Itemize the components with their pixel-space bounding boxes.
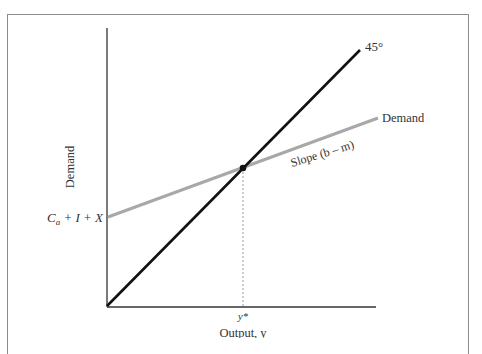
x-axis-label: Output, y bbox=[219, 326, 267, 338]
equilibrium-point bbox=[240, 165, 247, 172]
intercept-main: C bbox=[47, 210, 56, 225]
intercept-label: Ca + I + X bbox=[47, 210, 104, 227]
slope-label: Slope (b – m) bbox=[289, 137, 356, 170]
y-axis-label: Demand bbox=[63, 145, 77, 188]
slope-label-text: Slope (b – m) bbox=[289, 137, 356, 170]
line-45-degree bbox=[107, 50, 360, 306]
line-45-label: 45° bbox=[365, 39, 383, 54]
demand-line-label: Demand bbox=[382, 111, 425, 125]
intercept-rest: + I + X bbox=[60, 210, 104, 225]
equilibrium-label: y* bbox=[237, 311, 249, 322]
